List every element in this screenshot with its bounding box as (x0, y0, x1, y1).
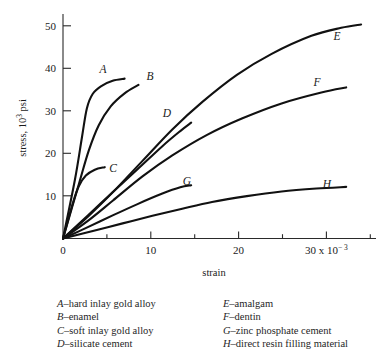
y-axis-title: stress, 103 psi (15, 99, 28, 157)
curve-label-B: B (146, 70, 153, 82)
curve-F (63, 87, 346, 238)
legend-text-G: zinc phosphate cement (236, 325, 332, 336)
legend-key-H: H (223, 338, 231, 349)
legend-text-C: soft inlay gold alloy (69, 325, 153, 336)
curve-label-G: G (183, 175, 192, 187)
curve-B (63, 85, 139, 239)
y-tick-label-10: 10 (45, 190, 57, 202)
curve-C (63, 167, 105, 238)
legend-text-H: direct resin filling material (236, 338, 348, 349)
curve-label-C: C (109, 162, 117, 174)
y-tick-label-40: 40 (45, 62, 57, 74)
legend-key-D: D (57, 338, 65, 349)
legend-column-right: E–amalgam F–dentin G–zinc phosphate ceme… (223, 297, 387, 351)
x-axis-ticks (107, 232, 370, 239)
stress-strain-figure: 50 40 30 20 10 0 10 20 30 x 10− 3 strain… (0, 0, 387, 357)
legend-item-F: F–dentin (223, 310, 387, 323)
y-axis-ticks (63, 26, 71, 196)
y-tick-label-50: 50 (45, 20, 57, 32)
curve-label-E: E (332, 30, 340, 42)
legend-text-B: enamel (69, 311, 99, 322)
legend-item-B: B–enamel (57, 310, 197, 323)
x-axis-exponent-label: 30 x 10− 3 (305, 243, 348, 256)
curve-group (63, 24, 361, 238)
legend-text-E: amalgam (235, 298, 273, 309)
y-tick-label-20: 20 (45, 147, 57, 159)
curve-label-H: H (322, 178, 332, 190)
curve-label-D: D (162, 107, 172, 119)
legend-key-C: C (57, 325, 64, 336)
x-tick-label-20: 20 (233, 244, 245, 256)
legend-column-left: A–hard inlay gold alloy B–enamel C–soft … (57, 297, 197, 351)
y-tick-label-30: 30 (45, 105, 57, 117)
curve-label-A: A (98, 63, 107, 75)
x-axis-title: strain (202, 267, 226, 278)
legend-item-D: D–silicate cement (57, 337, 197, 350)
legend-item-G: G–zinc phosphate cement (223, 324, 387, 337)
legend-item-C: C–soft inlay gold alloy (57, 324, 197, 337)
legend-text-F: dentin (235, 311, 261, 322)
x-tick-label-0: 0 (60, 244, 66, 256)
legend-item-A: A–hard inlay gold alloy (57, 297, 197, 310)
legend-item-H: H–direct resin filling material (223, 337, 387, 350)
legend-text-A: hard inlay gold alloy (69, 298, 156, 309)
legend: A–hard inlay gold alloy B–enamel C–soft … (57, 297, 387, 351)
legend-text-D: silicate cement (70, 338, 133, 349)
legend-item-E: E–amalgam (223, 297, 387, 310)
curve-H (63, 187, 346, 239)
curve-label-F: F (312, 76, 321, 88)
x-tick-label-10: 10 (145, 244, 157, 256)
legend-key-G: G (223, 325, 231, 336)
